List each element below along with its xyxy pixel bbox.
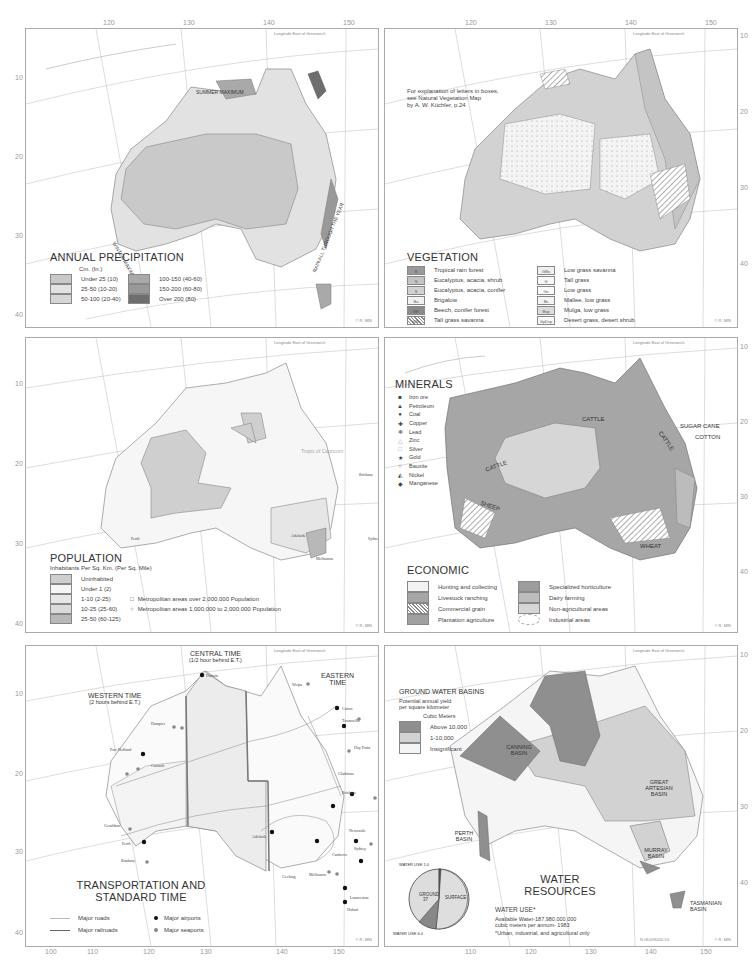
longitude-note: Longitude East of Greenwich [633,31,684,36]
lat-tick: 40 [15,620,23,627]
legend-label: Tropical rain forest [434,267,483,273]
legend-label: Commercial grain [438,606,485,612]
legend-swatch [50,594,72,604]
city-label: Geelong [282,874,296,879]
lon-tick: 140 [645,948,657,955]
central-time-label: CENTRAL TIME (1/2 hour behind E.T.) [189,650,242,663]
pie-label-ground: GROUND [419,892,439,897]
transport-legend-right: Major airports Major seaports [154,912,204,936]
vegetation-map-panel: For explanation of letters in boxes, see… [384,28,738,328]
legend-label: Industrial areas [549,617,590,623]
legend-label: Low grass [564,287,591,293]
zone-offset: (2 hours behind E.T.) [88,699,142,705]
legend-swatch: Bs [537,296,555,305]
title-line: STANDARD TIME [66,891,216,903]
legend-label: Copper [409,420,427,426]
lon-tick: 150 [333,948,345,955]
transportation-title: TRANSPORTATION AND STANDARD TIME [66,879,216,903]
credit: © R. MIN [714,623,731,628]
legend-swatch: S [407,286,425,295]
legend-label: Tall grass savanna [434,317,484,323]
lat-tick: 40 [740,260,748,267]
lat-tick: 10 [15,690,23,697]
city-label: Townsville [342,718,360,723]
water-footnote: *Urban, industrial, and agricultural onl… [495,930,589,937]
city-label: Melbourne [309,872,327,877]
legend-swatch [128,274,150,284]
city-label: Cairns [342,706,352,711]
tasmanian-basin-label: TASMANIAN BASIN [690,900,730,912]
legend-swatch [50,294,72,304]
murray-basin-label: MURRAY BASIN [641,847,671,859]
legend-label: Uninhabited [81,576,113,582]
economic-title: ECONOMIC [407,564,469,576]
city-label: Sydney [354,846,366,851]
legend-label: 25-50 (10-20) [81,286,117,292]
city-label: Launceston [350,895,368,900]
nickel-icon: ◭ [395,471,405,478]
city-label: Newcastle [349,828,366,833]
legend-swatch [128,294,150,304]
legend-label: 50-100 (20-40) [81,296,121,302]
petroleum-icon: ▲ [395,403,405,409]
lon-tick: 150 [705,19,717,26]
lat-tick: 20 [15,153,23,160]
figure-id: N.GD096200 D1 [640,937,670,942]
silver-icon: □ [395,446,405,452]
zinc-icon: △ [395,437,405,444]
legend-swatch [50,614,72,624]
legend-label: 1-10 (2-25) [81,596,111,602]
precipitation-legend-left: Under 25 (10) 25-50 (10-20) 50-100 (20-4… [50,274,121,304]
legend-swatch: Gs [537,286,555,295]
lat-tick: 20 [740,418,748,425]
legend-swatch [518,581,540,592]
precipitation-legend-right: 100-150 (40-60) 150-200 (60-80) Over 200… [128,274,202,304]
road-line-icon [50,918,70,919]
city-label: Dampier [151,721,165,726]
credit: © R. MIN [355,623,372,628]
basins-title: GROUND WATER BASINS [399,688,484,695]
railroad-line-icon [50,930,70,931]
legend-label: Major roads [78,915,110,921]
city-label: Adelaide [252,834,266,839]
cotton-label: COTTON [695,434,720,440]
lon-tick: 120 [143,948,155,955]
city-label: Port Hedland [110,747,131,752]
minerals-legend: ■Iron ore ▲Petroleum ●Coal ✚Copper ✱Lead… [395,393,438,488]
zone-name: EASTERN [321,672,354,679]
city-label: Darwin [206,673,218,678]
legend-swatch [128,284,150,294]
lat-tick: 10 [740,343,748,350]
pie-label-water-use-top: WATER USE 1.0 [399,862,429,867]
lat-tick: 40 [740,568,748,575]
basins-unit: Cubic Meters [423,713,455,719]
legend-label: Major airports [164,915,201,921]
legend-label: Under 1 (2) [81,586,111,592]
lon-tick: 150 [343,19,355,26]
lat-tick: 30 [15,848,23,855]
legend-label: Over 200 (80) [159,296,196,302]
legend-label: Eucalyptus, acacia, conifer [434,287,505,293]
lat-tick: 30 [740,803,748,810]
longitude-note: Longitude East of Greenwich [274,31,325,36]
legend-label: Silver [409,446,423,452]
copper-icon: ✚ [395,420,405,427]
legend-label: Major railroads [78,927,118,933]
legend-swatch [407,603,429,614]
note-line: For explanation of letters in boxes, [407,88,499,95]
city-label: Adelaide [291,533,305,538]
legend-label: Lead [409,429,421,435]
lon-tick: 110 [465,948,476,955]
legend-swatch [518,592,540,603]
metro-large-icon: □ [130,596,134,602]
lat-tick: 30 [740,493,748,500]
lat-tick: 40 [15,311,23,318]
lon-tick: 100 [45,948,57,955]
water-resources-map-panel: GROUND WATER BASINS Potential annual yie… [384,645,738,947]
metro-legend: □Metropolitan areas over 2,000,000 Popul… [130,594,281,614]
note-line: per square kilometer [399,704,451,710]
legend-label: Under 25 (10) [81,276,118,282]
legend-label: Eucalyptus, acacia, shrub [434,277,502,283]
population-legend: Uninhabited Under 1 (2) 1-10 (2-25) 10-2… [50,574,121,624]
city-label: Gladstone [338,771,354,776]
